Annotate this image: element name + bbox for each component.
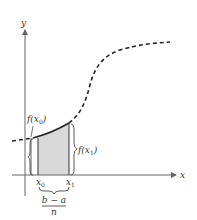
x0-label: x0	[36, 177, 45, 188]
f-x0-brace	[28, 139, 33, 175]
x-axis-label: x	[180, 170, 185, 180]
curve-left-dashed	[12, 138, 33, 141]
curve-right-dashed	[69, 42, 170, 123]
riemann-diagram: y x f(x0) f(x1) x0 x1 b − a n	[0, 0, 197, 220]
f-x1-label: f(x1)	[77, 145, 98, 156]
f-x1-brace	[71, 124, 77, 175]
width-denominator: n	[51, 207, 57, 217]
f-x0-label: f(x0)	[26, 114, 47, 125]
x1-label: x1	[66, 177, 75, 188]
width-numerator: b − a	[42, 195, 66, 205]
width-brace	[39, 187, 69, 194]
f-x0-pointer	[31, 126, 33, 137]
y-axis-label: y	[20, 18, 27, 28]
